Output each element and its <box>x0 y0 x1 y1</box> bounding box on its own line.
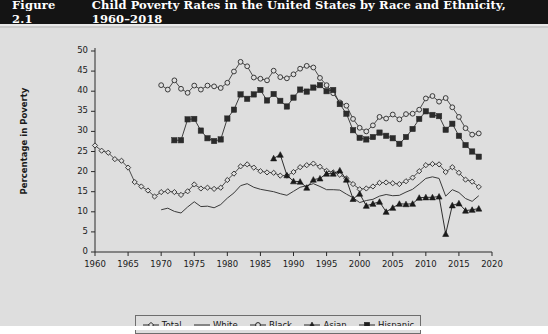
series-white <box>161 177 479 213</box>
y-axis-tick-label: 0 <box>66 246 88 256</box>
y-axis-tick-label: 25 <box>66 146 88 156</box>
y-axis-tick-label: 15 <box>66 186 88 196</box>
y-axis-tick-label: 10 <box>66 206 88 216</box>
y-axis-tick-label: 30 <box>66 125 88 135</box>
x-axis-tick-label: 2020 <box>472 259 512 269</box>
y-axis-tick-label: 45 <box>66 65 88 75</box>
series-total <box>92 143 481 199</box>
y-axis-tick-label: 50 <box>66 45 88 55</box>
series-black <box>159 59 481 137</box>
page-bottom-strip <box>0 326 548 330</box>
chart-plot-area: Percentage in Poverty 051015202530354045… <box>0 26 548 326</box>
y-axis-title: Percentage in Poverty <box>19 81 29 201</box>
chart-legend: TotalWhiteBlackAsianHispanic <box>135 315 421 334</box>
figure-caption: Child Poverty Rates in the United States… <box>92 0 548 26</box>
series-asian <box>271 152 482 237</box>
y-axis-tick-label: 5 <box>66 226 88 236</box>
y-axis-tick-label: 35 <box>66 105 88 115</box>
figure-title-bar: Figure 2.1 Child Poverty Rates in the Un… <box>0 0 548 24</box>
series-hispanic <box>172 82 482 159</box>
y-axis-tick-label: 40 <box>66 85 88 95</box>
figure-number: Figure 2.1 <box>12 0 76 26</box>
chart-panel: Percentage in Poverty 051015202530354045… <box>0 26 548 326</box>
y-axis-tick-label: 20 <box>66 166 88 176</box>
